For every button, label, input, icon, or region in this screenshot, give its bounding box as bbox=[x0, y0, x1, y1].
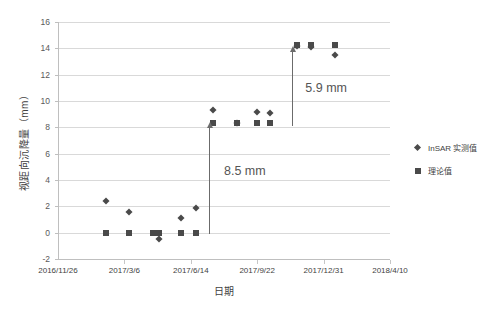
data-point-insar bbox=[103, 198, 110, 205]
annotation-label: 5.9 mm bbox=[305, 81, 347, 95]
legend-item-theoretical: 理论值 bbox=[412, 165, 477, 176]
x-axis-line bbox=[58, 259, 390, 260]
x-axis-tick-mark bbox=[324, 260, 325, 264]
data-point-theoretical bbox=[156, 230, 162, 236]
gridline bbox=[58, 127, 390, 128]
x-axis-title: 日期 bbox=[58, 283, 390, 298]
legend-label: 理论值 bbox=[428, 165, 452, 176]
scatter-chart: 1614121086420-22016/11/262017/3/62017/6/… bbox=[0, 0, 504, 311]
gridline bbox=[58, 48, 390, 49]
data-point-theoretical bbox=[254, 120, 260, 126]
data-point-theoretical bbox=[193, 230, 199, 236]
data-point-insar bbox=[156, 236, 163, 243]
gridline bbox=[58, 154, 390, 155]
data-point-theoretical bbox=[103, 230, 109, 236]
x-axis-tick-mark bbox=[191, 260, 192, 264]
x-axis-tick-label: 2017/3/6 bbox=[89, 267, 159, 275]
annotation-arrow-head-icon bbox=[207, 122, 213, 128]
gridline bbox=[58, 180, 390, 181]
legend-item-insar: InSAR 实测值 bbox=[412, 142, 477, 153]
gridline bbox=[58, 75, 390, 76]
annotation-label: 8.5 mm bbox=[224, 164, 266, 178]
plot-area: 1614121086420-22016/11/262017/3/62017/6/… bbox=[58, 22, 390, 259]
x-axis-tick-label: 2018/4/10 bbox=[355, 267, 425, 275]
gridline bbox=[58, 206, 390, 207]
x-axis-tick-label: 2017/9/22 bbox=[222, 267, 292, 275]
data-point-insar bbox=[177, 215, 184, 222]
gridline bbox=[58, 101, 390, 102]
data-point-insar bbox=[192, 204, 199, 211]
x-axis-tick-label: 2017/6/14 bbox=[156, 267, 226, 275]
y-axis-title: 视距向沉降量（mm） bbox=[16, 22, 31, 259]
x-axis-tick-mark bbox=[390, 260, 391, 264]
data-point-theoretical bbox=[267, 120, 273, 126]
gridline bbox=[58, 22, 390, 23]
annotation-arrow-line bbox=[292, 50, 293, 126]
data-point-theoretical bbox=[234, 120, 240, 126]
data-point-insar bbox=[267, 109, 274, 116]
data-point-theoretical bbox=[178, 230, 184, 236]
data-point-insar bbox=[126, 208, 133, 215]
data-point-insar bbox=[253, 108, 260, 115]
data-point-insar bbox=[332, 51, 339, 58]
annotation-arrow-head-icon bbox=[290, 46, 296, 52]
data-point-theoretical bbox=[332, 42, 338, 48]
data-point-theoretical bbox=[308, 42, 314, 48]
x-axis-tick-mark bbox=[257, 260, 258, 264]
annotation-arrow-line bbox=[209, 126, 210, 234]
data-point-theoretical bbox=[126, 230, 132, 236]
data-point-theoretical bbox=[150, 230, 156, 236]
data-point-insar bbox=[210, 107, 217, 114]
chart-legend: InSAR 实测值 理论值 bbox=[412, 142, 477, 188]
diamond-marker-icon bbox=[412, 145, 423, 150]
legend-label: InSAR 实测值 bbox=[428, 142, 477, 153]
square-marker-icon bbox=[412, 168, 423, 174]
y-axis-line bbox=[58, 22, 59, 259]
x-axis-tick-mark bbox=[124, 260, 125, 264]
x-axis-tick-label: 2017/12/31 bbox=[289, 267, 359, 275]
x-axis-tick-label: 2016/11/26 bbox=[23, 267, 93, 275]
